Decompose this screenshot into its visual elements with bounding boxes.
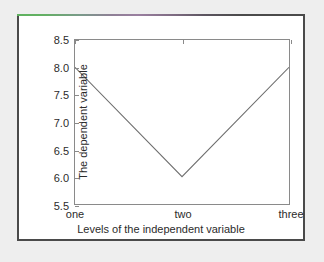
x-tick-label: two	[174, 209, 191, 220]
y-tick-label: 6.0	[54, 173, 69, 184]
y-axis-title: The dependent variable	[77, 64, 89, 180]
x-tick-label: three	[278, 209, 303, 220]
figure-frame: 5.56.06.57.07.58.08.5 onetwothree The de…	[17, 14, 305, 241]
chart-line-svg	[75, 40, 289, 204]
x-tick-label: one	[66, 209, 84, 220]
x-tick-mark	[75, 40, 76, 44]
x-tick-mark	[183, 40, 184, 44]
x-axis-title: Levels of the independent variable	[19, 223, 303, 235]
x-tick-mark	[291, 40, 292, 44]
y-tick-mark	[75, 206, 79, 207]
y-tick-label: 7.0	[54, 118, 69, 129]
y-tick-label: 6.5	[54, 145, 69, 156]
plot-area: 5.56.06.57.07.58.08.5 onetwothree	[74, 39, 290, 205]
figure-top-accent-bar	[17, 14, 305, 16]
y-tick-label: 8.0	[54, 62, 69, 73]
y-tick-label: 8.5	[54, 35, 69, 46]
y-tick-label: 7.5	[54, 90, 69, 101]
data-series-line	[75, 67, 289, 176]
